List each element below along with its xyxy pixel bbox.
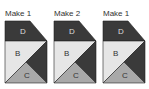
piece-d-label: D (20, 27, 26, 36)
block-label: Make 1 (5, 9, 31, 19)
piece-c-label: C (73, 71, 79, 80)
quilt-block-1: Make 1 D B C (4, 9, 48, 85)
piece-c-label: C (122, 71, 128, 80)
piece-d-label: D (69, 27, 75, 36)
piece-d-label: D (118, 27, 124, 36)
quilt-block-3: Make 1 D B C (102, 9, 146, 85)
piece-b-label: B (64, 49, 69, 58)
piece-d (103, 21, 145, 41)
piece-d (5, 21, 47, 41)
quilt-block-2: Make 2 D B C (53, 9, 97, 85)
block-label: Make 1 (103, 9, 129, 19)
piece-b-label: B (113, 49, 118, 58)
block-diagram: D B C (4, 20, 48, 84)
piece-b-label: B (15, 49, 20, 58)
piece-c-label: C (24, 71, 30, 80)
piece-d (54, 21, 96, 41)
block-diagram: D B C (102, 20, 146, 84)
block-label: Make 2 (54, 9, 80, 19)
block-diagram: D B C (53, 20, 97, 84)
